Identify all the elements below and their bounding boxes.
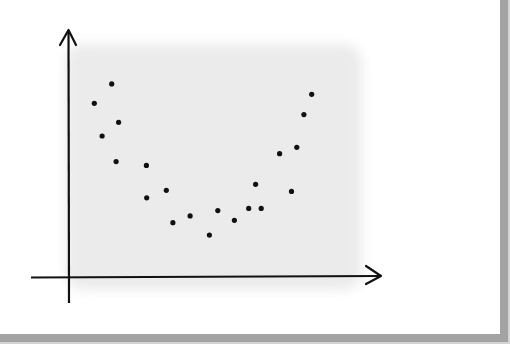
- data-point: [301, 112, 306, 117]
- data-point: [309, 92, 314, 97]
- x-axis-line: [31, 276, 381, 278]
- data-point: [170, 220, 175, 225]
- data-point: [259, 206, 264, 211]
- data-point: [109, 81, 114, 86]
- data-point: [253, 182, 258, 187]
- data-point: [114, 159, 119, 164]
- y-axis-line: [69, 30, 70, 303]
- data-point: [277, 151, 282, 156]
- data-point: [100, 133, 105, 138]
- plot-background: [66, 44, 362, 290]
- data-point: [215, 208, 220, 213]
- data-point: [164, 188, 169, 193]
- data-point: [188, 213, 193, 218]
- data-point: [116, 120, 121, 125]
- data-point: [246, 206, 251, 211]
- scatter-chart: [0, 0, 510, 344]
- data-point: [289, 189, 294, 194]
- data-point: [207, 233, 212, 238]
- data-point: [294, 145, 299, 150]
- data-point: [92, 101, 97, 106]
- data-point: [144, 195, 149, 200]
- data-point: [144, 163, 149, 168]
- data-point: [232, 218, 237, 223]
